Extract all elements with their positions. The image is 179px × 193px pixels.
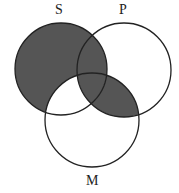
label-m: M (86, 174, 98, 188)
venn-diagram (0, 0, 179, 193)
label-s: S (55, 3, 63, 17)
label-p: P (119, 3, 127, 17)
